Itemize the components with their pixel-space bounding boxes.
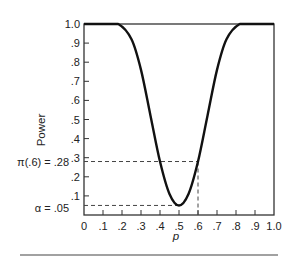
pi-annotation-label: π(.6) = .28 (17, 156, 69, 168)
x-tick-label: .8 (231, 220, 240, 232)
x-tick-label: 1.0 (266, 220, 281, 232)
y-tick-label: .2 (71, 171, 80, 183)
y-tick-label: .7 (71, 75, 80, 87)
y-tick-label: .4 (71, 133, 80, 145)
x-tick-label: .2 (117, 220, 126, 232)
x-tick-label: .4 (155, 220, 164, 232)
reference-lines (84, 162, 198, 215)
y-tick-label: .9 (71, 37, 80, 49)
y-axis-label: Power (35, 114, 47, 147)
y-tick-label: .5 (71, 114, 80, 126)
y-tick-label: .6 (71, 94, 80, 106)
x-tick-label: .1 (98, 220, 107, 232)
power-curve-chart: 0.1.2.3.4.5.6.7.8.91.0.1.2.3.4.5.6.7.8.9… (0, 0, 293, 262)
y-tick-label: .3 (71, 152, 80, 164)
plot-frame (84, 24, 274, 215)
y-tick-label: .1 (71, 190, 80, 202)
power-curve-line (84, 24, 274, 205)
x-tick-label: .9 (250, 220, 259, 232)
x-tick-label: 0 (81, 220, 87, 232)
y-tick-label: .8 (71, 56, 80, 68)
y-tick-label: 1.0 (65, 18, 80, 30)
x-tick-label: .7 (212, 220, 221, 232)
plot-axes (84, 24, 274, 215)
alpha-annotation-label: α = .05 (35, 202, 69, 214)
x-tick-label: .6 (193, 220, 202, 232)
x-tick-label: .3 (136, 220, 145, 232)
x-axis-label: p (172, 230, 180, 242)
